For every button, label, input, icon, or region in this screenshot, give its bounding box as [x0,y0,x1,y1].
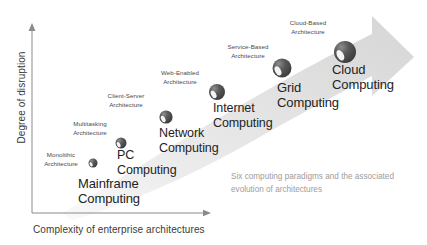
architecture-label-multitasking: Multitasking Architecture [61,120,119,137]
architecture-label-client-server: Client-Server Architecture [96,92,156,109]
paradigm-label-client-server: Network Computing [159,126,219,156]
architecture-label-cloud-based: Cloud-Based Architecture [277,19,339,36]
paradigm-label-service-based: Grid Computing [277,80,339,111]
paradigm-node-client-server [159,110,172,123]
architecture-label-web-enabled: Web-Enabled Architecture [149,69,211,86]
paradigm-label-cloud-based: Cloud Computing [332,62,394,93]
paradigm-label-web-enabled: Internet Computing [213,101,273,131]
paradigm-node-web-enabled [209,84,225,100]
x-axis-label: Complexity of enterprise architectures [33,224,205,235]
figure-caption: Six computing paradigms and the associat… [231,170,406,197]
architecture-label-service-based: Service-Based Architecture [217,43,279,60]
paradigm-node-monolithic [89,159,98,168]
paradigm-node-service-based [273,59,292,78]
paradigm-label-monolithic: Mainframe Computing [78,176,140,207]
architecture-label-monolithic: Monolithic Architecture [33,151,89,168]
y-axis-label: Degree of disruption [16,33,27,163]
diagram-canvas: Degree of disruption Complexity of enter… [0,0,427,245]
x-axis [32,210,211,216]
paradigm-node-multitasking [116,138,127,149]
y-axis [29,23,36,213]
paradigm-node-cloud-based [334,41,356,63]
